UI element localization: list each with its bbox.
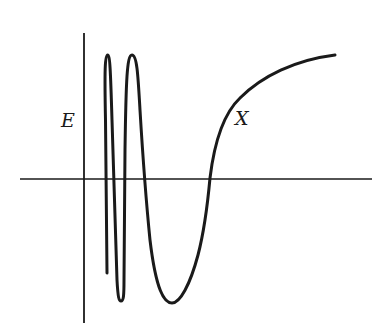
energy-diagram: E X bbox=[0, 0, 390, 331]
diagram-canvas bbox=[0, 0, 390, 331]
curve-label: X bbox=[235, 109, 249, 128]
y-axis-label: E bbox=[61, 111, 75, 130]
